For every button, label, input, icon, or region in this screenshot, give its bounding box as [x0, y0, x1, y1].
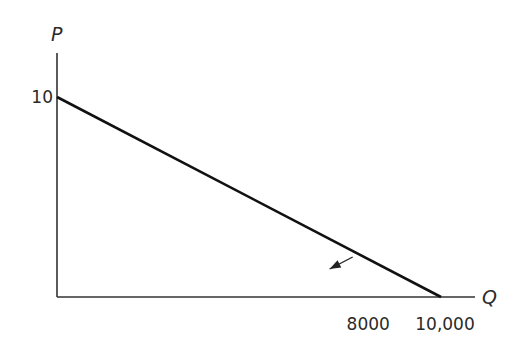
y-axis-label: P [51, 23, 63, 45]
x-tick-label: 8000 [347, 314, 390, 334]
arrow-head-icon [330, 260, 342, 269]
y-tick-label: 10 [31, 87, 53, 107]
x-axis-label: Q [482, 286, 497, 308]
demand-line [57, 97, 441, 297]
x-tick-label: 10,000 [415, 314, 474, 334]
chart: P Q 10 800010,000 [0, 0, 529, 349]
